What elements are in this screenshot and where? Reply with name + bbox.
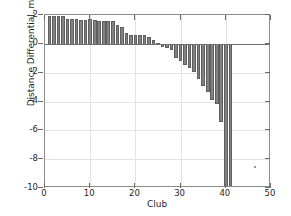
bar (210, 44, 214, 100)
y-tick-mark-right (265, 129, 270, 130)
bar (138, 35, 142, 44)
y-axis-label: Distance Differential, m (26, 0, 36, 128)
y-tick-mark-right (265, 43, 270, 44)
bar (147, 37, 151, 44)
bar (79, 20, 83, 44)
bar (201, 44, 205, 86)
bar (106, 21, 110, 44)
stray-speck-marker (254, 166, 256, 168)
bar (165, 44, 169, 48)
bar (52, 16, 56, 44)
y-tick-mark-right (265, 72, 270, 73)
x-axis-label: Club (44, 199, 270, 209)
y-tick-label: -8 (30, 154, 38, 163)
bar (206, 44, 210, 92)
bar (129, 35, 133, 44)
y-tick-mark (38, 72, 43, 73)
bar (116, 25, 120, 44)
bar (161, 44, 165, 47)
x-tick-mark-top (270, 15, 271, 20)
bar (219, 44, 223, 122)
y-tick-mark-right (265, 101, 270, 102)
bar-series (45, 15, 269, 186)
bar (170, 44, 174, 50)
bar (143, 35, 147, 44)
bar (88, 19, 92, 44)
bar (57, 16, 61, 44)
bar (66, 19, 70, 44)
bar (183, 44, 187, 65)
bar (229, 44, 233, 187)
x-tick-mark-top (44, 15, 45, 20)
bar (125, 33, 129, 43)
x-tick-label: 40 (213, 189, 237, 198)
x-tick-mark-top (89, 15, 90, 20)
x-tick-label: 0 (32, 189, 56, 198)
x-tick-mark-top (225, 15, 226, 20)
bar (70, 19, 74, 44)
y-tick-mark (38, 14, 43, 15)
bar (120, 27, 124, 44)
x-tick-mark-top (134, 15, 135, 20)
bar (174, 44, 178, 58)
y-tick-mark-right (265, 158, 270, 159)
y-tick-mark (38, 43, 43, 44)
y-tick-mark (38, 101, 43, 102)
bar (192, 44, 196, 72)
bar (179, 44, 183, 61)
x-tick-label: 10 (77, 189, 101, 198)
bar (156, 43, 160, 44)
bar (61, 16, 65, 43)
bar (224, 44, 228, 187)
bar (134, 35, 138, 44)
figure-container: 20-2-4-6-8-10 01020304050 Distance Diffe… (0, 0, 291, 216)
bar (84, 20, 88, 44)
y-tick-mark (38, 129, 43, 130)
bar (97, 21, 101, 44)
x-tick-mark-top (180, 15, 181, 20)
x-tick-label: 20 (122, 189, 146, 198)
bar (93, 20, 97, 43)
x-tick-label: 50 (258, 189, 282, 198)
bar (197, 44, 201, 79)
bar (188, 44, 192, 69)
bar (111, 21, 115, 44)
plot-area (44, 14, 270, 187)
bar (152, 40, 156, 44)
bar (48, 16, 52, 44)
bar (75, 19, 79, 44)
bar (215, 44, 219, 105)
x-tick-label: 30 (168, 189, 192, 198)
y-tick-mark (38, 158, 43, 159)
bar (102, 21, 106, 43)
